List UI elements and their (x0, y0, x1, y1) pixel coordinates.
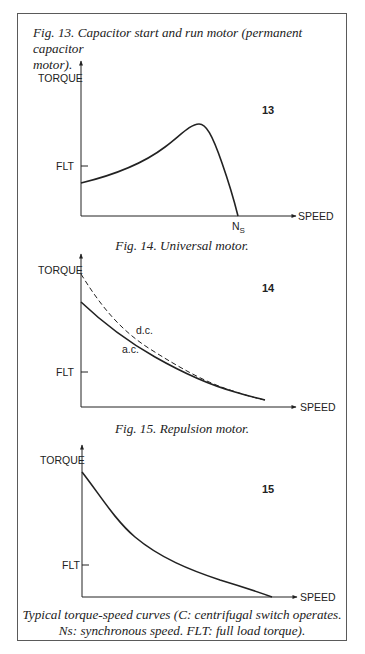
footer-caption-line2: Ns: synchronous speed. FLT: full load to… (59, 623, 305, 638)
fig13-torque-curve (81, 124, 238, 216)
fig14-ac-curve (81, 302, 265, 400)
fig15-flt-label: FLT (62, 559, 80, 571)
fig15-caption: Fig. 15. Repulsion motor. (17, 421, 347, 437)
fig14-torque-label: TORQUE (38, 264, 83, 276)
fig13-chart: TORQUE SPEED FLT NS 13 (38, 61, 334, 235)
footer-caption: Typical torque-speed curves (C: centrifu… (17, 607, 347, 639)
fig13-number: 13 (262, 104, 274, 116)
fig15-speed-label: SPEED (300, 591, 336, 603)
fig14-chart: TORQUE SPEED FLT 14 d.c. a.c. (38, 254, 336, 413)
fig15-chart: TORQUE SPEED FLT 15 (40, 445, 336, 603)
fig15-number: 15 (262, 483, 274, 495)
fig14-caption: Fig. 14. Universal motor. (17, 238, 347, 254)
fig14-number: 14 (262, 282, 275, 294)
fig13-flt-label: FLT (56, 160, 74, 172)
torque-speed-plots: TORQUE SPEED FLT NS 13 TORQUE SPEED FLT … (0, 0, 365, 654)
fig14-flt-label: FLT (56, 366, 74, 378)
fig14-ac-label: a.c. (122, 343, 139, 355)
fig15-torque-label: TORQUE (40, 454, 85, 466)
fig13-speed-label: SPEED (298, 210, 334, 222)
fig15-torque-curve (82, 472, 272, 597)
fig14-dc-label: d.c. (136, 324, 153, 336)
fig14-dc-curve (81, 274, 265, 400)
fig13-torque-label: TORQUE (38, 72, 83, 84)
footer-caption-line1: Typical torque-speed curves (C: centrifu… (23, 607, 342, 622)
fig13-ns-label: NS (232, 220, 245, 235)
fig14-speed-label: SPEED (300, 401, 336, 413)
